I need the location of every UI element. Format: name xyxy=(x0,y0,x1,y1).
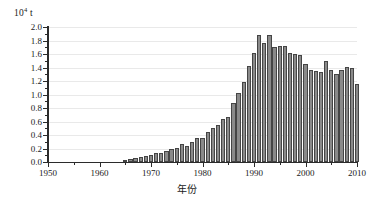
y-axis-tick xyxy=(43,122,49,123)
bar xyxy=(195,138,199,162)
bar xyxy=(314,71,318,162)
bar xyxy=(262,43,266,162)
bar xyxy=(185,146,189,162)
bar xyxy=(154,153,158,162)
y-axis-tick-label: 1.0 xyxy=(0,90,42,100)
x-axis-minor-tick xyxy=(125,162,126,165)
x-axis-minor-tick xyxy=(228,162,229,165)
bar xyxy=(128,159,132,162)
bar xyxy=(149,155,153,162)
bar xyxy=(350,68,354,163)
y-unit-suffix: t xyxy=(27,8,32,18)
x-axis-tick-label: 1980 xyxy=(183,168,223,178)
bar xyxy=(293,54,297,162)
bar xyxy=(190,142,194,162)
bar xyxy=(180,144,184,162)
bar xyxy=(226,117,230,162)
x-axis-title: 年份 xyxy=(0,181,373,196)
y-axis-minor-tick xyxy=(45,88,50,89)
y-axis-minor-tick xyxy=(45,128,50,129)
bar-chart-figure: 104 t 年份 0.00.20.40.60.81.01.21.41.61.82… xyxy=(0,0,373,204)
x-axis-tick xyxy=(151,162,152,167)
y-unit-mantissa: 10 xyxy=(14,8,24,18)
bar xyxy=(288,53,292,162)
bar xyxy=(252,53,256,162)
y-axis-tick xyxy=(43,54,49,55)
y-axis-tick xyxy=(43,149,49,150)
bar xyxy=(221,119,225,162)
bar xyxy=(139,157,143,162)
y-axis-tick xyxy=(43,135,49,136)
bar xyxy=(242,82,246,162)
x-axis-minor-tick xyxy=(280,162,281,165)
y-axis-minor-tick xyxy=(45,74,50,75)
bar xyxy=(211,128,215,162)
x-axis-minor-tick xyxy=(74,162,75,165)
x-axis-tick xyxy=(357,162,358,167)
x-axis-tick xyxy=(203,162,204,167)
x-axis-tick-label: 1970 xyxy=(131,168,171,178)
x-axis-tick-label: 1960 xyxy=(80,168,120,178)
bar xyxy=(278,46,282,162)
y-axis-minor-tick xyxy=(45,47,50,48)
y-axis-tick-label: 1.6 xyxy=(0,49,42,59)
bar xyxy=(298,55,302,162)
x-axis-tick xyxy=(306,162,307,167)
bar xyxy=(329,70,333,162)
x-axis-minor-tick xyxy=(331,162,332,165)
bar xyxy=(164,151,168,162)
y-axis-minor-tick xyxy=(45,101,50,102)
x-axis-minor-tick xyxy=(177,162,178,165)
bar xyxy=(231,103,235,162)
y-axis-tick-label: 0.0 xyxy=(0,157,42,167)
y-axis-tick xyxy=(43,81,49,82)
y-axis-tick xyxy=(43,41,49,42)
x-axis-tick-label: 2000 xyxy=(286,168,326,178)
bar xyxy=(303,64,307,162)
bar xyxy=(309,70,313,162)
bar xyxy=(144,156,148,162)
bar xyxy=(267,35,271,162)
bar xyxy=(283,46,287,162)
bar xyxy=(159,153,163,162)
bar xyxy=(216,125,220,162)
x-axis-tick xyxy=(254,162,255,167)
bar xyxy=(355,84,359,162)
x-axis-tick-label: 1990 xyxy=(234,168,274,178)
bar-series xyxy=(48,27,357,162)
y-axis-tick-label: 2.0 xyxy=(0,22,42,32)
y-axis-minor-tick xyxy=(45,142,50,143)
bar xyxy=(339,70,343,162)
y-axis-tick xyxy=(43,27,49,28)
x-axis-tick-label: 1950 xyxy=(28,168,68,178)
y-axis-minor-tick xyxy=(45,34,50,35)
bar xyxy=(345,67,349,162)
y-axis-tick-label: 0.2 xyxy=(0,144,42,154)
bar xyxy=(169,149,173,162)
bar xyxy=(319,72,323,162)
bar xyxy=(200,138,204,162)
bar xyxy=(272,47,276,162)
y-axis-tick-label: 0.6 xyxy=(0,117,42,127)
x-axis-tick-label: 2010 xyxy=(337,168,373,178)
bar xyxy=(133,158,137,162)
y-axis-unit-label: 104 t xyxy=(14,8,33,18)
y-axis-minor-tick xyxy=(45,115,50,116)
x-axis-tick xyxy=(100,162,101,167)
bar xyxy=(247,66,251,162)
bar xyxy=(257,35,261,162)
y-axis-tick xyxy=(43,108,49,109)
bar xyxy=(206,132,210,162)
bar xyxy=(175,148,179,162)
bar xyxy=(324,61,328,162)
y-axis-tick-label: 1.4 xyxy=(0,63,42,73)
y-axis-minor-tick xyxy=(45,61,50,62)
y-axis-tick xyxy=(43,68,49,69)
y-axis-tick-label: 1.8 xyxy=(0,36,42,46)
y-axis-tick xyxy=(43,95,49,96)
y-axis-minor-tick xyxy=(45,155,50,156)
x-axis-tick xyxy=(48,162,49,167)
bar xyxy=(236,93,240,162)
y-axis-tick-label: 1.2 xyxy=(0,76,42,86)
y-axis-tick-label: 0.4 xyxy=(0,130,42,140)
